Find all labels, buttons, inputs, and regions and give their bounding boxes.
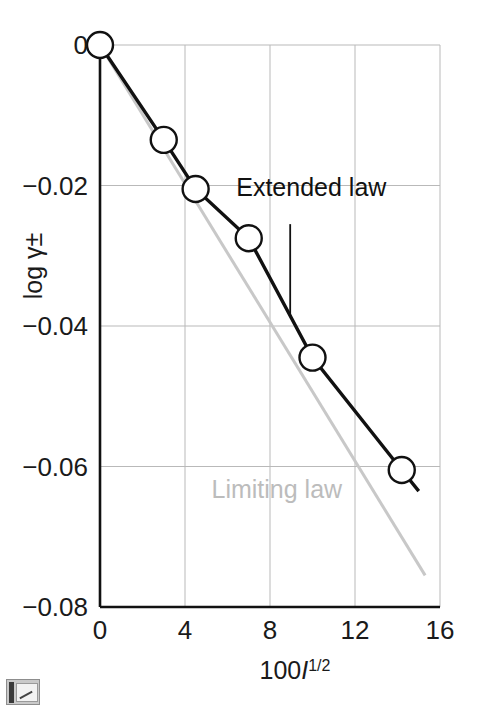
x-axis-title: 100I1/2 <box>260 656 331 684</box>
x-axis-tick-labels: 0481216 <box>93 615 455 645</box>
x-tick-label: 0 <box>93 615 107 645</box>
x-tick-label: 8 <box>263 615 277 645</box>
y-tick-label: −0.08 <box>22 592 88 622</box>
x-tick-label: 12 <box>341 615 370 645</box>
x-tick-label: 16 <box>426 615 455 645</box>
x-tick-label: 4 <box>178 615 192 645</box>
y-tick-label: −0.06 <box>22 452 88 482</box>
extended-law-label: Extended law <box>236 173 387 201</box>
limiting-law-label: Limiting law <box>212 475 344 503</box>
chart-figure: 0481216 0−0.02−0.04−0.06−0.08 100I1/2 lo… <box>0 0 477 709</box>
y-axis-tick-labels: 0−0.02−0.04−0.06−0.08 <box>22 30 88 622</box>
series-extended-law <box>100 45 419 491</box>
y-tick-label: −0.02 <box>22 171 88 201</box>
icon-bar <box>9 682 14 703</box>
y-tick-label: 0 <box>74 30 88 60</box>
image-placeholder-icon <box>6 679 40 705</box>
plot-canvas: 0481216 0−0.02−0.04−0.06−0.08 100I1/2 lo… <box>0 0 477 709</box>
y-axis-title: log γ± <box>19 233 47 300</box>
y-tick-label: −0.04 <box>22 311 88 341</box>
